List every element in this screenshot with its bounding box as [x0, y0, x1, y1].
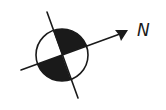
north-label: N — [137, 20, 150, 40]
north-arrow-diagram: N — [0, 0, 166, 110]
filled-quadrant-lower-left — [38, 55, 71, 81]
